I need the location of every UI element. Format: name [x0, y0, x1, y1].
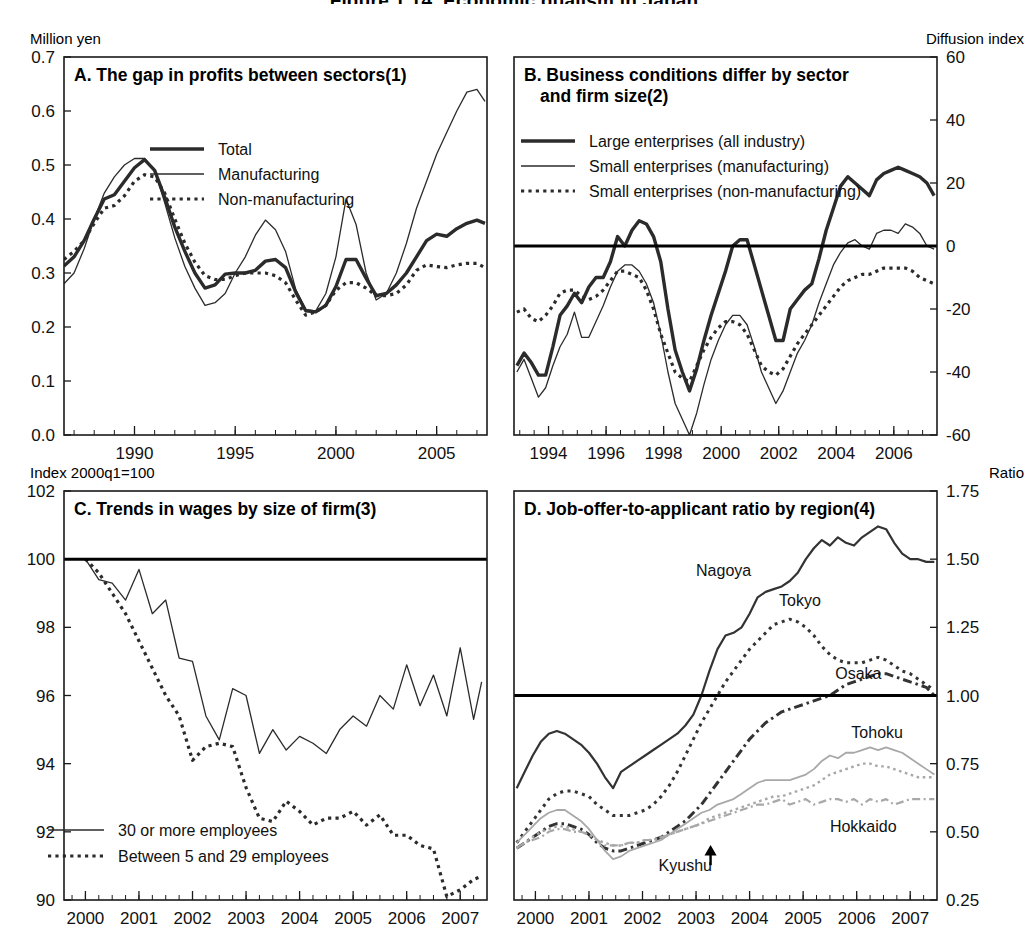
x-tick-label: 2005 — [784, 909, 822, 928]
panel-a-chart: 0.00.10.20.30.40.50.60.71990199520002005… — [0, 28, 500, 453]
legend-label: Small enterprises (manufacturing) — [589, 158, 829, 175]
x-tick-label: 2004 — [817, 444, 855, 463]
y-tick-label: 96 — [36, 687, 55, 706]
y-tick-label: 90 — [36, 891, 55, 910]
y-tick-label: 0.3 — [31, 264, 55, 283]
panel-title: D. Job-offer-to-applicant ratio by regio… — [524, 499, 875, 519]
y-tick-label: 1.25 — [946, 618, 979, 637]
y-tick-label: 0.6 — [31, 102, 55, 121]
x-tick-label: 2007 — [891, 909, 929, 928]
y-tick-label: 0.2 — [31, 318, 55, 337]
y-tick-label: 40 — [946, 111, 965, 130]
series-annotation: Nagoya — [696, 562, 751, 579]
legend-label: Non-manufacturing — [218, 191, 354, 208]
series-annotation: Hokkaido — [830, 818, 897, 835]
legend-label: Large enterprises (all industry) — [589, 133, 805, 150]
legend-label: 30 or more employees — [118, 822, 277, 839]
y-tick-label: 102 — [27, 482, 55, 501]
y-tick-label: 0.50 — [946, 823, 979, 842]
x-tick-label: 2002 — [760, 444, 798, 463]
y-tick-label: 1.75 — [946, 482, 979, 501]
x-tick-label: 2006 — [388, 909, 426, 928]
panel-a-unit-label: Million yen — [30, 30, 101, 47]
y-tick-label: 0.0 — [31, 426, 55, 445]
series-line — [85, 559, 481, 753]
panel-title: C. Trends in wages by size of firm(3) — [74, 499, 376, 519]
x-tick-label: 2001 — [120, 909, 158, 928]
panel-title: A. The gap in profits between sectors(1) — [74, 65, 407, 85]
panel-b: Diffusion index -60-40-20020406019941996… — [505, 28, 1028, 453]
x-tick-label: 1994 — [530, 444, 568, 463]
panel-b-chart: -60-40-200204060199419961998200020022004… — [505, 28, 1028, 453]
x-tick-label: 2000 — [67, 909, 105, 928]
x-tick-label: 2003 — [227, 909, 265, 928]
x-tick-label: 2000 — [517, 909, 555, 928]
x-tick-label: 2005 — [418, 444, 456, 463]
y-tick-label: 60 — [946, 48, 965, 67]
x-tick-label: 2007 — [441, 909, 479, 928]
y-tick-label: 98 — [36, 618, 55, 637]
x-tick-label: 1998 — [645, 444, 683, 463]
y-tick-label: 100 — [27, 550, 55, 569]
y-tick-label: 0 — [946, 237, 955, 256]
x-tick-label: 2006 — [838, 909, 876, 928]
x-tick-label: 2004 — [731, 909, 769, 928]
y-tick-label: 0.75 — [946, 755, 979, 774]
y-tick-label: 1.00 — [946, 687, 979, 706]
panel-d-unit-label: Ratio — [989, 464, 1024, 481]
series-line — [517, 764, 935, 849]
series-line — [517, 224, 934, 435]
x-tick-label: 2002 — [624, 909, 662, 928]
series-annotation: Osaka — [835, 665, 881, 682]
panel-d: Ratio 0.250.500.751.001.251.501.75200020… — [505, 462, 1028, 930]
legend-label: Between 5 and 29 employees — [118, 848, 329, 865]
y-tick-label: 0.4 — [31, 210, 55, 229]
y-tick-label: -40 — [946, 363, 971, 382]
x-tick-label: 1990 — [116, 444, 154, 463]
panel-c-chart: 9092949698100102200020012002200320042005… — [0, 462, 500, 930]
series-annotation: Kyushu — [659, 857, 712, 874]
series-annotation: Tohoku — [851, 724, 903, 741]
legend-label: Small enterprises (non-manufacturing) — [589, 183, 861, 200]
y-tick-label: 0.5 — [31, 156, 55, 175]
panel-a: Million yen 0.00.10.20.30.40.50.60.71990… — [0, 28, 500, 453]
x-tick-label: 2003 — [677, 909, 715, 928]
y-tick-label: -20 — [946, 300, 971, 319]
x-tick-label: 2000 — [702, 444, 740, 463]
panel-b-unit-label: Diffusion index — [926, 30, 1024, 47]
x-tick-label: 2001 — [570, 909, 608, 928]
panel-c: Index 2000q1=100 90929496981001022000200… — [0, 462, 500, 930]
x-tick-label: 1996 — [587, 444, 625, 463]
y-tick-label: 0.1 — [31, 372, 55, 391]
legend-label: Total — [218, 141, 252, 158]
panel-title-line2: and firm size(2) — [540, 86, 668, 106]
y-tick-label: 0.25 — [946, 891, 979, 910]
panel-d-chart: 0.250.500.751.001.251.501.75200020012002… — [505, 462, 1028, 930]
x-tick-label: 2002 — [174, 909, 212, 928]
y-tick-label: 92 — [36, 823, 55, 842]
panel-c-unit-label: Index 2000q1=100 — [30, 464, 155, 481]
figure-title: Figure 1.14. Economic dualism in Japan — [0, 0, 1028, 4]
series-line — [85, 559, 481, 896]
y-tick-label: 94 — [36, 755, 55, 774]
y-tick-label: 20 — [946, 174, 965, 193]
x-tick-label: 2006 — [875, 444, 913, 463]
legend-label: Manufacturing — [218, 166, 319, 183]
series-line — [517, 167, 934, 391]
y-tick-label: -60 — [946, 426, 971, 445]
panel-title: B. Business conditions differ by sector — [524, 65, 849, 85]
y-tick-label: 1.50 — [946, 550, 979, 569]
x-tick-label: 2000 — [317, 444, 355, 463]
y-tick-label: 0.7 — [31, 48, 55, 67]
x-tick-label: 1995 — [216, 444, 254, 463]
series-annotation: Tokyo — [779, 592, 821, 609]
x-tick-label: 2005 — [334, 909, 372, 928]
x-tick-label: 2004 — [281, 909, 319, 928]
